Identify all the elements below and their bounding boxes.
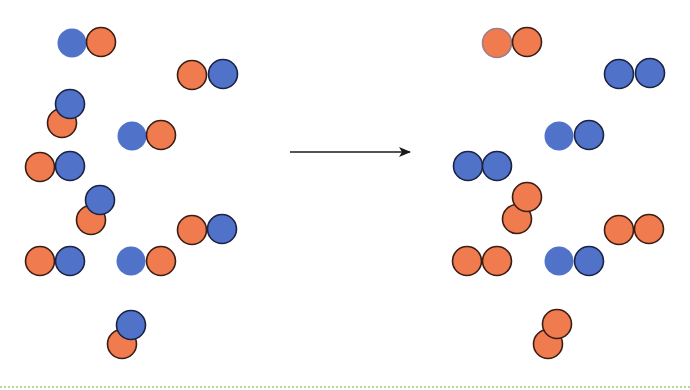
product-molecule	[483, 28, 542, 58]
orange-atom	[635, 215, 664, 244]
products-group	[453, 28, 665, 359]
orange-atom	[453, 247, 482, 276]
reactant-molecule	[108, 311, 146, 359]
orange-atom	[543, 310, 572, 339]
blue-atom	[118, 122, 147, 151]
blue-atom	[483, 152, 512, 181]
reactant-molecule	[58, 28, 116, 58]
blue-atom	[575, 247, 604, 276]
blue-atom	[636, 59, 665, 88]
orange-atom	[513, 183, 542, 212]
reactant-molecule	[117, 247, 176, 276]
product-molecule	[605, 59, 665, 89]
orange-atom	[147, 121, 176, 150]
orange-atom	[26, 153, 55, 182]
orange-atom	[513, 28, 542, 57]
product-molecule	[545, 247, 604, 276]
blue-atom	[117, 247, 146, 276]
reactant-molecule	[48, 90, 85, 138]
reactant-molecule	[118, 121, 176, 151]
orange-atom	[26, 247, 55, 276]
reactant-molecule	[77, 186, 115, 235]
orange-atom	[483, 247, 512, 276]
orange-atom	[483, 29, 512, 58]
product-molecule	[605, 215, 664, 245]
blue-atom	[56, 247, 85, 276]
product-molecule	[454, 152, 512, 181]
blue-atom	[454, 152, 483, 181]
orange-atom	[147, 247, 176, 276]
reaction-diagram	[0, 0, 690, 390]
product-molecule	[534, 310, 572, 359]
bottom-dotted-rule	[0, 386, 690, 388]
reactant-molecule	[178, 215, 237, 245]
orange-atom	[178, 216, 207, 245]
reactants-group	[26, 28, 238, 359]
blue-atom	[545, 247, 574, 276]
orange-atom	[87, 28, 116, 57]
product-molecule	[545, 121, 604, 151]
orange-atom	[605, 216, 634, 245]
reactant-molecule	[26, 152, 85, 182]
product-molecule	[503, 183, 542, 234]
product-molecule	[453, 247, 512, 276]
blue-atom	[575, 121, 604, 150]
blue-atom	[58, 29, 87, 58]
blue-atom	[605, 60, 634, 89]
blue-atom	[208, 215, 237, 244]
reactant-molecule	[178, 60, 238, 90]
blue-atom	[56, 152, 85, 181]
reactant-molecule	[26, 247, 85, 276]
blue-atom	[56, 90, 85, 119]
blue-atom	[545, 122, 574, 151]
orange-atom	[178, 61, 207, 90]
blue-atom	[209, 60, 238, 89]
blue-atom	[86, 186, 115, 215]
blue-atom	[117, 311, 146, 340]
